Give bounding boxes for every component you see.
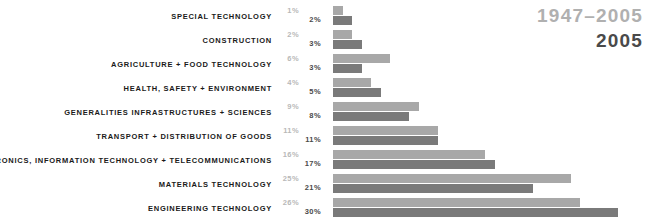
chart-row: SPECIAL TECHNOLOGY1%2% bbox=[0, 6, 651, 30]
bar-2005 bbox=[333, 208, 618, 217]
category-label: CONSTRUCTION bbox=[203, 36, 272, 45]
value-label-1947-2005: 1% bbox=[279, 6, 299, 15]
chart-row: MATERIALS TECHNOLOGY25%21% bbox=[0, 174, 651, 198]
bar-group bbox=[333, 78, 381, 102]
chart-row: GENERALITIES INFRASTRUCTURES + SCIENCES9… bbox=[0, 102, 651, 126]
bar-2005 bbox=[333, 88, 381, 97]
value-label-2005: 3% bbox=[301, 39, 321, 48]
category-label: HEALTH, SAFETY + ENVIRONMENT bbox=[124, 84, 272, 93]
bar-2005 bbox=[333, 16, 352, 25]
chart-row: HEALTH, SAFETY + ENVIRONMENT4%5% bbox=[0, 78, 651, 102]
value-label-2005: 17% bbox=[301, 159, 321, 168]
value-label-2005: 21% bbox=[301, 183, 321, 192]
chart-row: TRANSPORT + DISTRIBUTION OF GOODS11%11% bbox=[0, 126, 651, 150]
bar-2005 bbox=[333, 40, 362, 49]
category-label: AGRICULTURE + FOOD TECHNOLOGY bbox=[111, 60, 272, 69]
bar-1947-2005 bbox=[333, 54, 390, 63]
value-label-1947-2005: 4% bbox=[279, 78, 299, 87]
value-label-2005: 2% bbox=[301, 15, 321, 24]
bar-2005 bbox=[333, 112, 409, 121]
bar-2005 bbox=[333, 160, 495, 169]
category-label: MATERIALS TECHNOLOGY bbox=[159, 180, 272, 189]
category-label: ENGINEERING TECHNOLOGY bbox=[148, 204, 272, 213]
category-label: GENERALITIES INFRASTRUCTURES + SCIENCES bbox=[64, 108, 272, 117]
value-label-2005: 8% bbox=[301, 111, 321, 120]
bar-1947-2005 bbox=[333, 150, 485, 159]
bar-1947-2005 bbox=[333, 174, 571, 183]
chart-row: ENGINEERING TECHNOLOGY26%30% bbox=[0, 198, 651, 221]
bar-group bbox=[333, 6, 352, 30]
chart-row: ELECTRONICS, INFORMATION TECHNOLOGY + TE… bbox=[0, 150, 651, 174]
value-label-1947-2005: 6% bbox=[279, 54, 299, 63]
value-label-2005: 5% bbox=[301, 87, 321, 96]
bar-1947-2005 bbox=[333, 198, 580, 207]
chart-row: AGRICULTURE + FOOD TECHNOLOGY6%3% bbox=[0, 54, 651, 78]
value-label-1947-2005: 9% bbox=[279, 102, 299, 111]
value-label-1947-2005: 25% bbox=[279, 174, 299, 183]
category-label: TRANSPORT + DISTRIBUTION OF GOODS bbox=[96, 132, 272, 141]
value-label-1947-2005: 26% bbox=[279, 198, 299, 207]
bar-1947-2005 bbox=[333, 78, 371, 87]
bar-group bbox=[333, 126, 438, 150]
grouped-bar-chart: 1947–2005 2005 SPECIAL TECHNOLOGY1%2%CON… bbox=[0, 0, 651, 221]
bar-group bbox=[333, 102, 419, 126]
bar-1947-2005 bbox=[333, 6, 343, 15]
bar-group bbox=[333, 30, 362, 54]
bar-group bbox=[333, 54, 390, 78]
value-label-1947-2005: 2% bbox=[279, 30, 299, 39]
value-label-1947-2005: 11% bbox=[279, 126, 299, 135]
value-label-2005: 3% bbox=[301, 63, 321, 72]
category-label: SPECIAL TECHNOLOGY bbox=[171, 12, 272, 21]
chart-rows: SPECIAL TECHNOLOGY1%2%CONSTRUCTION2%3%AG… bbox=[0, 6, 651, 221]
bar-group bbox=[333, 150, 495, 174]
category-label: ELECTRONICS, INFORMATION TECHNOLOGY + TE… bbox=[0, 156, 272, 165]
bar-2005 bbox=[333, 184, 533, 193]
bar-1947-2005 bbox=[333, 126, 438, 135]
bar-group bbox=[333, 198, 618, 221]
bar-1947-2005 bbox=[333, 30, 352, 39]
value-label-2005: 11% bbox=[301, 135, 321, 144]
bar-2005 bbox=[333, 136, 438, 145]
chart-row: CONSTRUCTION2%3% bbox=[0, 30, 651, 54]
bar-1947-2005 bbox=[333, 102, 419, 111]
value-label-1947-2005: 16% bbox=[279, 150, 299, 159]
bar-2005 bbox=[333, 64, 362, 73]
bar-group bbox=[333, 174, 571, 198]
value-label-2005: 30% bbox=[301, 207, 321, 216]
